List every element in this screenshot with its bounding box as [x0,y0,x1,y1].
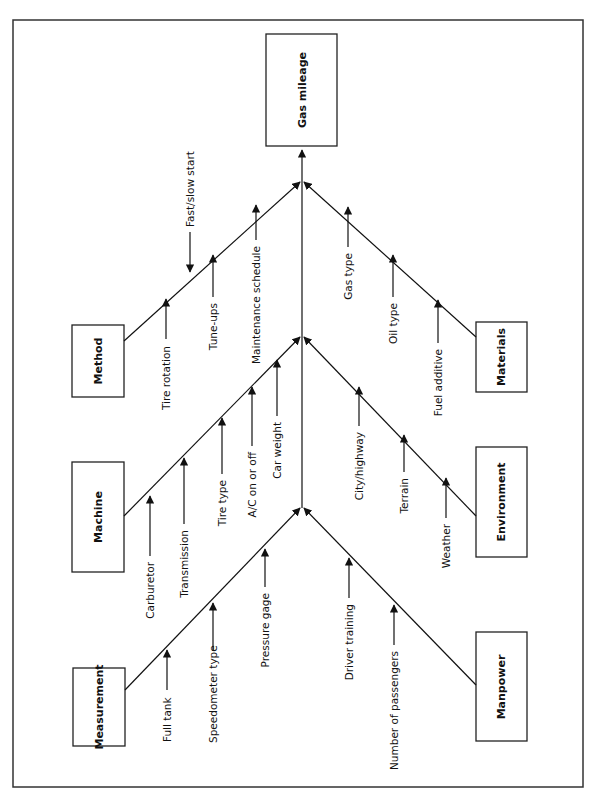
cause-label: Tire type [216,480,228,527]
cause-label: Terrain [398,478,410,515]
category-label-method: Method [92,338,105,385]
category-label-measurement: Measurement [93,664,106,749]
cause-label: Tire rotation [160,346,172,411]
category-materials: Materials Gas type Oil type Fuel additiv… [304,182,527,416]
cause-label: Pressure gage [259,593,271,667]
category-label-machine: Machine [92,491,105,543]
category-label-manpower: Manpower [495,654,508,719]
cause-label: Oil type [387,303,399,344]
category-label-environment: Environment [495,462,508,541]
cause-label: Number of passengers [388,651,400,770]
cause-label: Transmission [178,530,190,599]
cause-label: A/C on or off [246,451,258,517]
cause-label: Full tank [161,697,173,742]
cause-label: Driver training [343,604,355,680]
cause-label: Weather [440,523,452,568]
effect-box: Gas mileage [266,34,337,146]
cause-label: Speedometer type [207,645,219,743]
effect-label: Gas mileage [296,52,309,128]
cause-label: Fuel additive [432,349,444,416]
cause-label: Carburetor [144,561,156,618]
cause-label: Tune-ups [207,303,219,351]
category-label-materials: Materials [495,328,508,386]
cause-label: Fast/slow start [184,151,196,227]
fishbone-diagram: Gas mileage Method Tire rotation Fast/sl… [0,0,592,797]
cause-label: Gas type [342,253,354,300]
cause-label: Car weight [271,422,283,479]
cause-label: City/highway [353,432,365,500]
cause-label: Maintenance schedule [250,246,262,364]
